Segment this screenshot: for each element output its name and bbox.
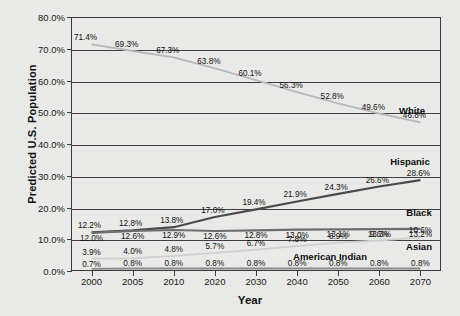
data-point-label: 5.7% [206, 241, 225, 250]
data-point-label: 28.6% [407, 169, 430, 178]
data-point-label: 17.0% [201, 206, 224, 215]
data-point-label: 24.3% [325, 182, 348, 191]
data-point-label: 13.8% [160, 216, 183, 225]
data-point-label: 12.0% [80, 233, 103, 242]
data-point-label: 69.3% [115, 39, 138, 48]
series-label-hispanic: Hispanic [390, 156, 430, 167]
data-point-label: 12.2% [78, 221, 101, 230]
data-point-label: 4.8% [164, 244, 183, 253]
data-point-label: 49.6% [362, 102, 385, 111]
chart-container: Predicted U.S. Population Year 0.0%10.0%… [0, 0, 460, 316]
data-point-label: 0.8% [206, 259, 225, 268]
data-point-label: 12.6% [121, 231, 144, 240]
data-point-label: 67.3% [156, 46, 179, 55]
series-label-white: White [399, 105, 425, 116]
data-point-label: 8.9% [329, 231, 348, 240]
data-point-label: 0.7% [82, 259, 101, 268]
data-point-label: 7.8% [288, 235, 307, 244]
data-point-label: 71.4% [74, 33, 97, 42]
data-point-label: 19.4% [242, 198, 265, 207]
data-point-label: 12.9% [162, 231, 185, 240]
data-point-label: 0.8% [370, 259, 389, 268]
data-point-label: 12.6% [203, 231, 226, 240]
data-point-label: 6.7% [247, 238, 266, 247]
data-point-label: 10.6% [409, 226, 432, 235]
series-label-american-indian: American Indian [293, 251, 367, 262]
data-point-label: 63.8% [197, 57, 220, 66]
data-point-label: 3.9% [82, 247, 101, 256]
data-point-label: 56.3% [280, 81, 303, 90]
data-point-label: 0.8% [247, 259, 266, 268]
data-point-label: 4.0% [123, 247, 142, 256]
data-point-label: 60.1% [238, 69, 261, 78]
data-point-label: 0.8% [123, 259, 142, 268]
data-point-label: 52.8% [321, 92, 344, 101]
data-point-label: 0.8% [164, 259, 183, 268]
data-point-label: 0.8% [411, 259, 430, 268]
data-point-label: 12.8% [119, 219, 142, 228]
data-point-label: 26.6% [366, 175, 389, 184]
data-point-label: 21.9% [284, 190, 307, 199]
series-label-asian: Asian [406, 241, 432, 252]
data-point-label: 9.6% [370, 229, 389, 238]
series-label-black: Black [406, 207, 431, 218]
